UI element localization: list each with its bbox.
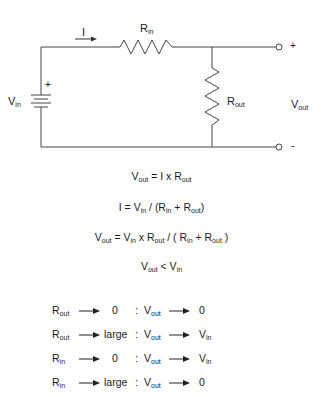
battery-plus-label: + <box>45 80 51 90</box>
separator: : <box>135 351 138 365</box>
result-value: 0 <box>199 303 205 317</box>
resistor-label: Rout <box>52 327 69 345</box>
result-value: 0 <box>199 375 205 389</box>
result-value: Vin <box>199 327 211 345</box>
limit-row: Rinlarge:Vout0 <box>0 375 323 389</box>
equation-text: ) <box>201 201 205 213</box>
equation-text: I = V <box>119 201 141 213</box>
equation-text: ) <box>222 231 228 243</box>
equation-4: Vout < Vin <box>0 261 323 273</box>
rout-label-main: R <box>227 95 235 107</box>
equation-subscript: out <box>212 237 222 244</box>
equation-text: < V <box>158 260 177 272</box>
separator: : <box>135 303 138 317</box>
arrow-right-icon <box>79 375 101 389</box>
arrow-right-icon <box>169 351 191 365</box>
equation-subscript: out <box>138 176 148 183</box>
battery-icon <box>31 95 51 107</box>
equation-text: + R <box>193 231 213 243</box>
rout-label-sub: out <box>235 101 245 108</box>
arrow-right-icon <box>169 375 191 389</box>
limit-row: Rin0:VoutVin <box>0 351 323 365</box>
condition-value: large <box>104 375 127 389</box>
output-label: Vout <box>144 375 161 393</box>
equation-text: V <box>95 231 102 243</box>
arrow-right-icon <box>169 303 191 317</box>
resistor-label: Rin <box>52 351 65 369</box>
rin-label-sub: in <box>148 28 153 35</box>
terminal-minus <box>276 144 282 150</box>
separator: : <box>135 375 138 389</box>
equation-text: = V <box>111 231 130 243</box>
equation-1: Vout = I x Rout <box>0 171 323 183</box>
equation-text: = I x R <box>148 170 182 182</box>
separator: : <box>135 327 138 341</box>
arrow-right-icon <box>79 303 101 317</box>
equation-subscript: out <box>155 237 165 244</box>
equation-subscript: out <box>182 176 192 183</box>
equation-subscript: in <box>177 266 182 273</box>
limit-row: Routlarge:VoutVin <box>0 327 323 341</box>
arrow-right-icon <box>79 351 101 365</box>
vin-label-sub: in <box>15 101 20 108</box>
equation-subscript: out <box>148 266 158 273</box>
vout-label: Vout <box>291 99 308 111</box>
resistor-label: Rin <box>52 375 65 393</box>
equation-text: V <box>141 260 148 272</box>
condition-value: large <box>104 327 127 341</box>
resistor-rin <box>120 40 172 54</box>
equation-3: Vout = Vin x Rout / ( Rin + Rout ) <box>0 232 323 244</box>
vout-label-sub: out <box>298 104 308 111</box>
terminal-plus <box>276 44 282 50</box>
terminal-plus-label: + <box>290 41 296 51</box>
current-label: I <box>82 27 85 38</box>
equation-text: / ( R <box>164 231 187 243</box>
equation-2: I = Vin / (Rin + Rout) <box>0 202 323 214</box>
equation-text: + R <box>171 201 191 213</box>
equation-subscript: out <box>191 207 201 214</box>
condition-value: 0 <box>112 303 118 317</box>
limit-row: Rout0:Vout0 <box>0 303 323 317</box>
rin-label: Rin <box>140 23 153 35</box>
rout-label: Rout <box>227 96 245 108</box>
output-label: Vout <box>144 303 161 321</box>
output-label: Vout <box>144 327 161 345</box>
current-arrow-icon <box>75 37 97 42</box>
arrow-right-icon <box>169 327 191 341</box>
result-value: Vin <box>199 351 211 369</box>
vin-label: Vin <box>8 96 21 108</box>
terminal-minus-label: - <box>291 141 294 151</box>
arrow-right-icon <box>79 327 101 341</box>
output-label: Vout <box>144 351 161 369</box>
rin-label-main: R <box>140 22 148 34</box>
condition-value: 0 <box>112 351 118 365</box>
equation-text: x R <box>136 231 155 243</box>
equation-text: / (R <box>146 201 166 213</box>
resistor-label: Rout <box>52 303 69 321</box>
resistor-rout <box>205 68 219 125</box>
